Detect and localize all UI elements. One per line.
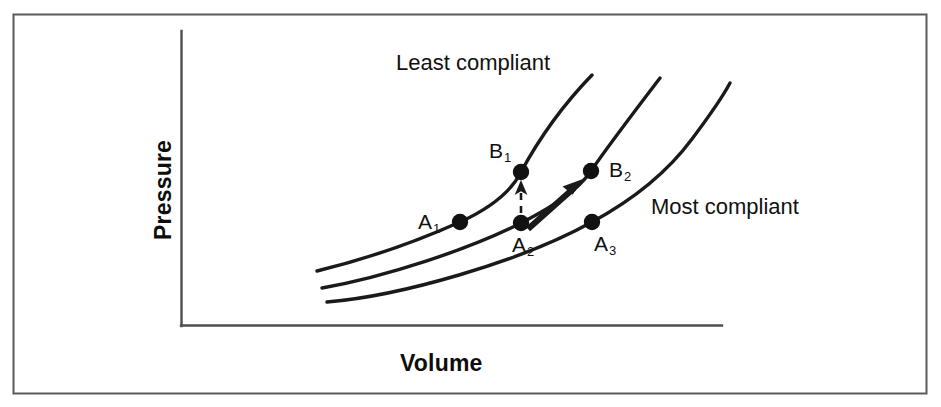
data-point-a2 [513,215,529,231]
arrow-a2-to-b2-shaft [528,188,574,229]
data-point-a1 [452,214,468,230]
point-label-a1-subscript: 1 [433,221,440,236]
point-label-a3-letter: A [594,232,608,255]
point-label-a3: A3 [594,233,615,254]
data-point-a3 [584,214,600,230]
point-label-b2-letter: B [609,158,623,181]
point-label-b1-subscript: 1 [504,150,511,165]
x-axis-title: Volume [400,352,483,375]
annotation-least-compliant: Least compliant [396,52,550,74]
curve-most-compliant [327,83,730,302]
point-label-a1: A1 [418,211,439,232]
point-label-a1-letter: A [418,210,432,233]
pressure-volume-compliance-figure: Pressure Volume Least compliant Most com… [0,0,941,407]
point-label-b2-subscript: 2 [624,169,631,184]
annotation-most-compliant: Most compliant [651,196,799,218]
y-axis-title: Pressure [152,140,175,240]
point-label-a2-subscript: 2 [527,244,534,259]
data-point-b2 [583,163,599,179]
data-point-b1 [513,164,529,180]
point-label-a2: A2 [512,234,533,255]
point-label-b2: B2 [609,159,630,180]
point-label-a2-letter: A [512,233,526,256]
point-label-b1-letter: B [489,139,503,162]
point-label-a3-subscript: 3 [609,243,616,258]
point-label-b1: B1 [489,140,510,161]
